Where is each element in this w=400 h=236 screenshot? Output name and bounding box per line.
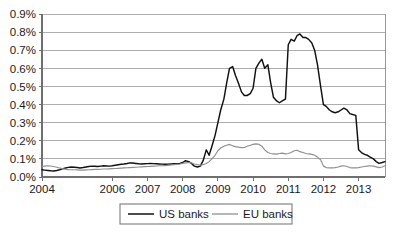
plot-frame xyxy=(42,14,385,177)
y-tick-label-0-7pct: 0.7% xyxy=(10,44,36,56)
x-tick-label-2013: 2013 xyxy=(346,183,372,195)
x-tick-label-2011: 2011 xyxy=(276,183,301,195)
y-tick-label-0-3pct: 0.3% xyxy=(10,117,36,129)
x-tick-label-2010: 2010 xyxy=(240,183,266,195)
x-axis-tick-marks xyxy=(42,177,359,181)
x-tick-label-2006: 2006 xyxy=(100,183,126,195)
y-tick-label-0-9pct: 0.9% xyxy=(10,8,36,20)
x-tick-label-2007: 2007 xyxy=(135,183,161,195)
y-tick-label-0-8pct: 0.8% xyxy=(10,26,36,38)
y-tick-label-0-4pct: 0.4% xyxy=(10,99,36,111)
line-chart: 0.0%0.1%0.2%0.3%0.4%0.5%0.6%0.7%0.8%0.9%… xyxy=(0,0,400,236)
y-tick-label-0-2pct: 0.2% xyxy=(10,135,36,147)
series-line-us-banks xyxy=(42,34,385,171)
gridlines xyxy=(42,14,385,177)
x-tick-label-2009: 2009 xyxy=(205,183,231,195)
legend-label-eu-banks: EU banks xyxy=(243,208,293,220)
legend-label-us-banks: US banks xyxy=(159,208,209,220)
y-tick-label-0-0pct: 0.0% xyxy=(10,171,36,183)
x-tick-label-2008: 2008 xyxy=(170,183,196,195)
y-tick-label-0-5pct: 0.5% xyxy=(10,81,36,93)
y-tick-label-0-6pct: 0.6% xyxy=(10,63,36,75)
chart-container: 0.0%0.1%0.2%0.3%0.4%0.5%0.6%0.7%0.8%0.9%… xyxy=(0,0,400,236)
x-tick-label-2012: 2012 xyxy=(311,183,337,195)
x-axis-tick-labels: 200420062007200820092010201120122013 xyxy=(29,183,371,195)
chart-legend: US banksEU banks xyxy=(120,204,293,224)
x-tick-label-2004: 2004 xyxy=(29,183,55,195)
y-tick-label-0-1pct: 0.1% xyxy=(10,153,36,165)
y-axis-tick-labels: 0.0%0.1%0.2%0.3%0.4%0.5%0.6%0.7%0.8%0.9% xyxy=(10,8,42,183)
data-series xyxy=(42,34,385,171)
